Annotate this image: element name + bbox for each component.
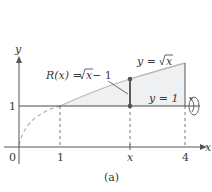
y-tick-label-1: 1 <box>9 100 16 113</box>
svg-text:− 1: − 1 <box>92 69 112 82</box>
svg-text:y =: y = <box>136 55 156 68</box>
tick-label-1: 1 <box>57 151 64 164</box>
x-axis-label: x <box>205 141 212 154</box>
tick-label-x: x <box>127 151 134 164</box>
dashed-curve-segment <box>19 106 60 145</box>
svg-text:R(x) =: R(x) = <box>45 69 82 82</box>
y-axis-label: y <box>14 43 22 56</box>
figure-caption: (a) <box>104 171 119 184</box>
radius-top-point <box>128 77 133 82</box>
svg-text:x: x <box>166 55 173 68</box>
diagram-canvas: y x 0 1 x 4 1 y = x y = 1 R(x) = x − 1 (… <box>0 0 212 192</box>
tick-label-0: 0 <box>9 151 16 164</box>
label-sqrt-curve: y = x <box>136 55 173 68</box>
tick-label-4: 4 <box>182 151 189 164</box>
radius-bottom-point <box>128 104 133 109</box>
label-radius: R(x) = x − 1 <box>45 69 112 82</box>
label-y1: y = 1 <box>148 92 178 105</box>
y-axis-arrow-icon <box>16 56 22 63</box>
